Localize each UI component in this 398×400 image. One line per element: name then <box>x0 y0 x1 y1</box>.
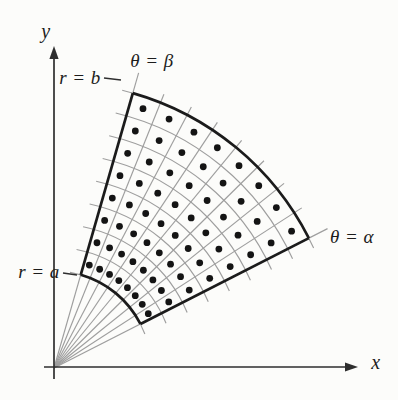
sample-point-dot <box>117 172 124 179</box>
sample-point-dot <box>118 251 125 258</box>
sample-point-dot <box>101 217 108 224</box>
sample-point-dot <box>142 210 149 217</box>
sample-point-dot <box>154 190 161 197</box>
sample-point-dot <box>132 292 139 299</box>
sample-point-dot <box>236 162 243 169</box>
x-axis-label: x <box>371 352 380 372</box>
sample-point-dot <box>132 128 139 135</box>
radial-grid-line <box>54 183 284 368</box>
sample-point-dot <box>188 215 195 222</box>
sample-point-dot <box>136 180 143 187</box>
sample-point-dot <box>172 232 179 239</box>
r-equals-a-label: r = a <box>18 262 60 281</box>
x-axis-arrowhead <box>345 362 358 371</box>
sample-point-dot <box>178 149 185 156</box>
sample-point-dot <box>130 230 137 237</box>
figure-canvas: y x θ = β θ = α r = b r = a <box>0 0 398 400</box>
sample-point-dot <box>227 263 234 270</box>
sample-point-dot <box>206 275 213 282</box>
sample-point-dot <box>273 204 280 211</box>
r-equals-b-label: r = b <box>59 68 101 87</box>
label-pointer-dash <box>104 78 121 80</box>
sample-point-dot <box>106 271 113 278</box>
sample-point-dot <box>106 244 113 251</box>
sample-point-dot <box>238 198 245 205</box>
radial-grid-line <box>54 122 217 368</box>
sample-point-dot <box>185 245 192 252</box>
sample-point-dot <box>156 249 163 256</box>
sample-point-dot <box>158 220 165 227</box>
sample-point-dot <box>115 277 122 284</box>
sample-point-dot <box>165 299 172 306</box>
sample-point-dot <box>140 267 147 274</box>
radial-grid-line <box>54 107 191 368</box>
sample-point-dot <box>158 287 165 294</box>
sample-point-dot <box>156 137 163 144</box>
sample-point-dot <box>124 150 131 157</box>
sample-point-dot <box>200 163 207 170</box>
sample-point-dot <box>204 197 211 204</box>
radial-grid-line <box>54 208 302 368</box>
sample-point-dot <box>214 144 221 151</box>
sample-point-dot <box>220 214 227 221</box>
sample-point-dot <box>166 116 173 123</box>
sample-point-dot <box>124 284 131 291</box>
sample-point-dot <box>146 159 153 166</box>
sample-point-dot <box>145 310 152 317</box>
sample-point-dot <box>247 251 254 258</box>
sample-point-dot <box>166 169 173 176</box>
sample-point-dot <box>288 228 295 235</box>
polar-region-figure <box>0 0 398 400</box>
theta-beta-label: θ = β <box>130 51 174 70</box>
sample-point-dot <box>196 259 203 266</box>
sample-point-dot <box>202 229 209 236</box>
theta-alpha-label: θ = α <box>330 227 374 246</box>
sample-point-dot <box>191 129 198 136</box>
sample-point-dot <box>126 202 133 209</box>
sample-point-dot <box>139 301 146 308</box>
y-axis-arrowhead <box>49 46 58 59</box>
sample-point-dot <box>255 182 262 189</box>
sample-point-dot <box>116 223 123 230</box>
sample-point-dot <box>254 218 261 225</box>
sample-point-dot <box>220 180 227 187</box>
sample-point-dot <box>167 261 174 268</box>
sample-point-dot <box>96 266 103 273</box>
sample-point-dot <box>172 201 179 208</box>
radial-grid-line <box>54 94 164 368</box>
sample-point-dot <box>150 277 157 284</box>
sample-point-dot <box>215 246 222 253</box>
sample-point-dot <box>140 105 147 112</box>
sample-point-dot <box>94 239 101 246</box>
sample-point-dot <box>235 232 242 239</box>
sample-point-dot <box>86 262 93 269</box>
sample-point-dot <box>129 258 136 265</box>
sample-point-dot <box>268 240 275 247</box>
sample-point-dot <box>109 195 116 202</box>
sample-point-dot <box>177 273 184 280</box>
y-axis-label: y <box>41 21 50 41</box>
theta-alpha-boundary <box>140 238 308 324</box>
sample-point-dot <box>186 182 193 189</box>
sample-point-dot <box>144 239 151 246</box>
sample-point-dot <box>186 287 193 294</box>
